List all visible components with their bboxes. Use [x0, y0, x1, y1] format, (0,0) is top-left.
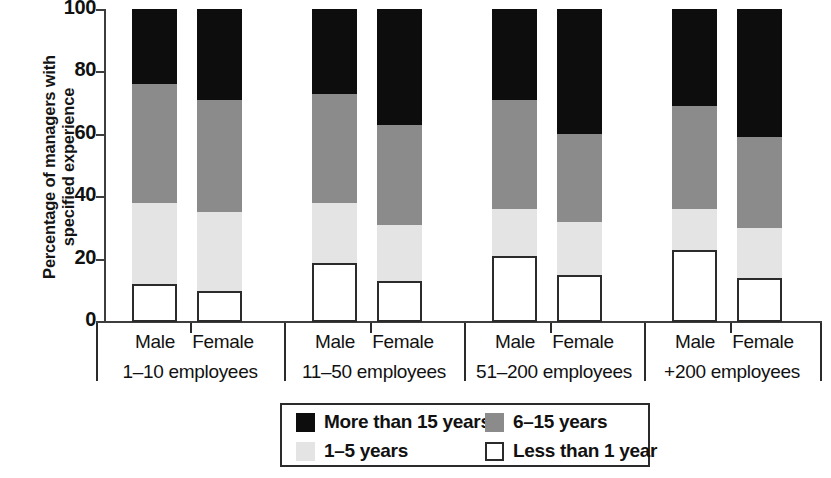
legend-swatch-black-icon — [296, 413, 315, 432]
segment-less-than-1-year — [557, 275, 602, 322]
segment-1-5-years — [672, 209, 717, 250]
bar-1-10-male — [132, 9, 177, 322]
segment-more-than-15-years — [492, 9, 537, 100]
segment-1-5-years — [557, 222, 602, 275]
segment-6-15-years — [377, 125, 422, 225]
legend-swatch-gray-icon — [485, 413, 504, 432]
y-tick-label-80: 80 — [42, 58, 96, 81]
legend-label-1-5: 1–5 years — [324, 440, 408, 462]
segment-more-than-15-years — [672, 9, 717, 106]
segment-6-15-years — [312, 94, 357, 204]
y-tick-label-100: 100 — [42, 0, 96, 19]
segment-more-than-15-years — [737, 9, 782, 137]
segment-less-than-1-year — [737, 278, 782, 322]
segment-less-than-1-year — [377, 281, 422, 322]
legend-item-more-than-15[interactable]: More than 15 years — [296, 407, 491, 437]
sex-label-plus200-female: Female — [718, 331, 808, 353]
segment-less-than-1-year — [492, 256, 537, 322]
y-tick-label-40: 40 — [42, 183, 96, 206]
bar-1-10-female — [197, 9, 242, 322]
legend-row-2: 1–5 years Less than 1 year — [282, 436, 648, 466]
legend-row-1: More than 15 years 6–15 years — [282, 407, 648, 437]
legend-label-6-15: 6–15 years — [513, 411, 607, 433]
segment-6-15-years — [557, 134, 602, 222]
plot-area — [104, 9, 822, 322]
segment-less-than-1-year — [672, 250, 717, 322]
y-tick-label-60: 60 — [42, 121, 96, 144]
legend-item-6-15[interactable]: 6–15 years — [485, 407, 607, 437]
group-label-plus200: +200 employees — [632, 361, 831, 383]
legend-item-less-than-1[interactable]: Less than 1 year — [485, 436, 657, 466]
segment-1-5-years — [492, 209, 537, 256]
segment-1-5-years — [737, 228, 782, 278]
legend-item-1-5[interactable]: 1–5 years — [296, 436, 408, 466]
bar-11-50-female — [377, 9, 422, 322]
bar-51-200-male — [492, 9, 537, 322]
group-label-51-200: 51–200 employees — [454, 361, 654, 383]
segment-1-5-years — [377, 225, 422, 281]
sex-label-11-50-female: Female — [358, 331, 448, 353]
legend: More than 15 years 6–15 years 1–5 years … — [280, 403, 650, 467]
bar-51-200-female — [557, 9, 602, 322]
segment-6-15-years — [672, 106, 717, 209]
segment-less-than-1-year — [132, 284, 177, 322]
group-label-11-50: 11–50 employees — [274, 361, 474, 383]
y-tick-label-0: 0 — [42, 308, 96, 331]
segment-less-than-1-year — [197, 291, 242, 322]
legend-swatch-white-icon — [485, 442, 504, 461]
segment-6-15-years — [492, 100, 537, 210]
segment-6-15-years — [197, 100, 242, 213]
segment-6-15-years — [737, 137, 782, 228]
segment-6-15-years — [132, 84, 177, 203]
segment-more-than-15-years — [312, 9, 357, 94]
sex-label-1-10-female: Female — [178, 331, 268, 353]
segment-more-than-15-years — [197, 9, 242, 100]
sex-label-51-200-female: Female — [538, 331, 628, 353]
bar-11-50-male — [312, 9, 357, 322]
bar-plus200-female — [737, 9, 782, 322]
segment-more-than-15-years — [557, 9, 602, 134]
segment-1-5-years — [312, 203, 357, 262]
bar-plus200-male — [672, 9, 717, 322]
legend-swatch-light-gray-icon — [296, 442, 315, 461]
y-tick-label-20: 20 — [42, 246, 96, 269]
segment-more-than-15-years — [377, 9, 422, 125]
segment-1-5-years — [197, 212, 242, 290]
segment-1-5-years — [132, 203, 177, 284]
legend-label-more-than-15: More than 15 years — [324, 411, 491, 433]
segment-less-than-1-year — [312, 263, 357, 322]
stacked-bar-chart: Percentage of managers with specified ex… — [0, 0, 831, 478]
segment-more-than-15-years — [132, 9, 177, 84]
legend-label-less-than-1: Less than 1 year — [513, 440, 657, 462]
group-label-1-10: 1–10 employees — [90, 361, 290, 383]
